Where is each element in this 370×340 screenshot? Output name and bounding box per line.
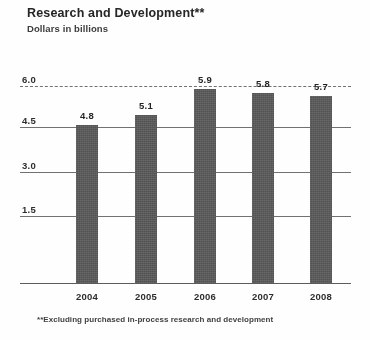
x-tick-label-2006: 2006 (182, 291, 228, 302)
y-tick-label-4-5: 4.5 (22, 116, 36, 126)
x-tick-label-2005: 2005 (123, 291, 169, 302)
bar-value-2006: 5.9 (185, 74, 225, 85)
gridline-4-5 (20, 127, 351, 128)
gridline-3-0 (20, 172, 351, 173)
gridline-1-5 (20, 216, 351, 217)
x-tick-label-2007: 2007 (240, 291, 286, 302)
research-and-development-chart: Research and Development** Dollars in bi… (0, 0, 370, 340)
bar-2006 (194, 89, 216, 283)
y-tick-label-3-0: 3.0 (22, 161, 36, 171)
plot-area: 6.0 4.5 3.0 1.5 4.8 5.1 5.9 5.8 5.7 2004… (0, 0, 370, 340)
bar-2005 (135, 115, 157, 283)
bar-2007 (252, 93, 274, 283)
chart-footnote: **Excluding purchased in-process researc… (37, 315, 273, 324)
bar-value-2004: 4.8 (67, 110, 107, 121)
bar-value-2007: 5.8 (243, 78, 283, 89)
x-tick-label-2008: 2008 (298, 291, 344, 302)
y-tick-label-1-5: 1.5 (22, 205, 36, 215)
y-tick-label-6-0: 6.0 (22, 75, 36, 85)
bar-value-2005: 5.1 (126, 100, 166, 111)
x-axis-baseline (20, 283, 351, 284)
bar-2008 (310, 96, 332, 283)
bar-2004 (76, 125, 98, 283)
x-tick-label-2004: 2004 (64, 291, 110, 302)
bar-value-2008: 5.7 (301, 81, 341, 92)
